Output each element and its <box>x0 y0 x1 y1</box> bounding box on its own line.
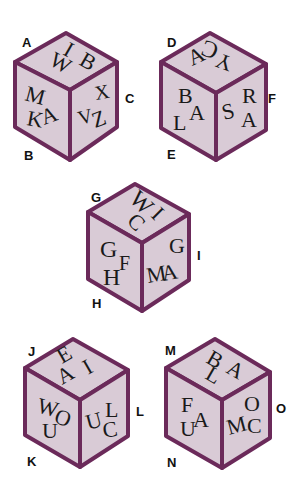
cube-3-right-letter-2: G <box>169 233 185 258</box>
cube-5-label-bottom-left: N <box>167 455 176 470</box>
cube-puzzle-figure: I B W M K A V X Z A B C C Y A B L A S R … <box>0 0 302 495</box>
cube-1-label-right: C <box>125 91 135 106</box>
cube-2-left-letter-3: A <box>189 100 205 125</box>
cube-5-right-letter-3: C <box>247 413 262 438</box>
cube-1-label-top-left: A <box>22 35 32 50</box>
cube-5: B A L F A U M O C M N O <box>165 339 286 470</box>
cube-5-left-letter-1: F <box>181 392 193 417</box>
cube-5-left-letter-3: U <box>180 416 196 441</box>
cube-2: C Y A B L A S R A D E F <box>161 33 276 162</box>
cube-1: I B W M K A V X Z A B C <box>15 33 135 163</box>
cube-4: E I A W O U U L C J K L <box>25 339 144 469</box>
cube-2-label-bottom-left: E <box>167 147 176 162</box>
cube-3: W I C G H F M G A G H I <box>88 184 201 311</box>
cube-4-label-top-left: J <box>28 344 35 359</box>
cube-2-left-letter-2: L <box>173 110 186 135</box>
cube-2-right-letter-2: R <box>242 83 257 108</box>
cube-3-left-letter-1: G <box>100 236 117 262</box>
cube-3-left-letter-3: F <box>119 252 130 274</box>
cube-3-left-letter-2: H <box>103 264 120 290</box>
cube-4-label-right: L <box>136 404 144 419</box>
cube-5-label-top-left: M <box>165 343 176 358</box>
cube-4-label-bottom-left: K <box>27 454 37 469</box>
cube-2-label-top-left: D <box>167 35 176 50</box>
cube-3-label-top-left: G <box>91 190 101 205</box>
cube-1-label-bottom-left: B <box>24 148 33 163</box>
cube-2-right-letter-3: A <box>241 107 257 132</box>
cube-5-label-right: O <box>276 401 286 416</box>
cube-3-label-bottom-left: H <box>92 296 101 311</box>
cube-2-label-right: F <box>268 91 276 106</box>
cube-4-left-letter-3: U <box>42 418 58 443</box>
cube-3-label-right: I <box>197 248 201 263</box>
